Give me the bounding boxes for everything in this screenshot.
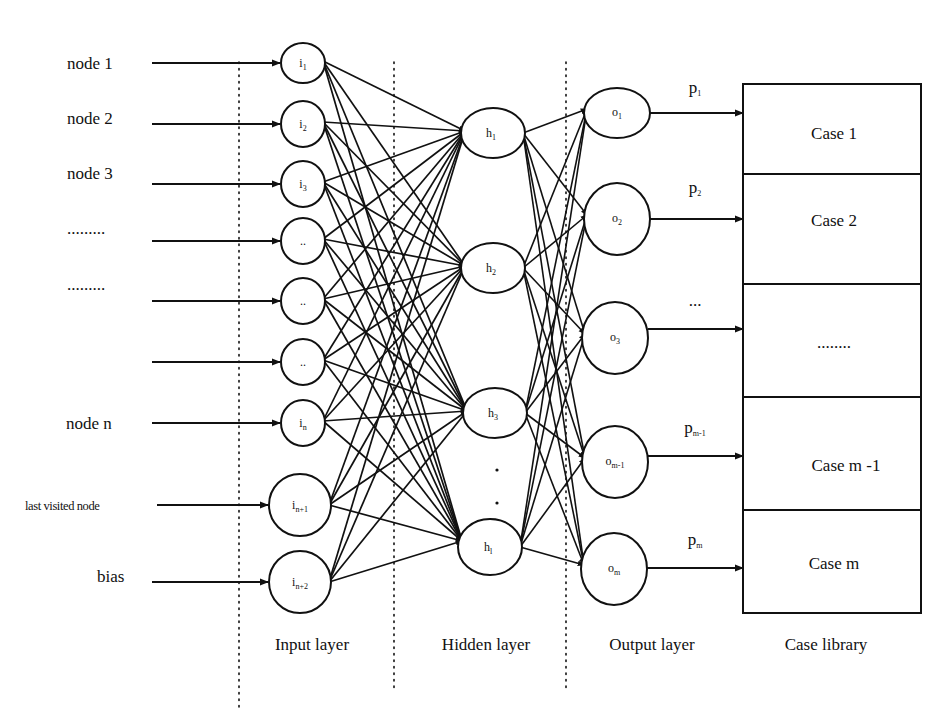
hidden-node-h3: h3	[463, 388, 527, 438]
connection-edge	[523, 268, 584, 565]
input-node-in: in	[281, 400, 325, 446]
case-row-label: ........	[817, 333, 851, 352]
case-library: Case 1Case 2........Case m -1Case m	[743, 84, 921, 613]
input-label: .........	[67, 275, 105, 294]
connection-edge	[323, 61, 462, 541]
input-node-in2: in+2	[269, 551, 331, 613]
input-label: node 2	[67, 109, 113, 128]
input-label: node n	[66, 414, 112, 433]
ellipsis-dot	[495, 501, 498, 504]
connection-edge	[520, 547, 584, 565]
node-label-main: ..	[300, 355, 306, 369]
output-node-o1: o1	[584, 88, 650, 138]
node-label-subscript: 2	[303, 124, 307, 133]
probability-label-main: p	[688, 530, 697, 549]
node-label-subscript: 3	[494, 413, 498, 422]
connection-edge	[323, 266, 465, 360]
layer-labels: Input layerHidden layerOutput layerCase …	[275, 635, 868, 654]
probability-label-main: ...	[689, 291, 702, 310]
hidden-node-hl: hl	[458, 519, 522, 575]
node-label-subscript: 2	[492, 268, 496, 277]
input-label: bias	[97, 567, 124, 586]
probability-label-subscript: 2	[697, 189, 701, 198]
hidden-layer-nodes: h1h2h3hl	[458, 108, 527, 575]
node-label-subscript: 1	[618, 112, 622, 121]
neural-network-diagram: node 1node 2node 3..................node…	[0, 0, 942, 726]
connection-edge	[520, 215, 587, 547]
connection-edge	[323, 122, 465, 131]
case-row-label: Case m	[809, 554, 860, 573]
output-node-o2: o2	[584, 183, 650, 255]
layer-label: Case library	[785, 635, 868, 654]
node-label-subscript: 3	[303, 184, 307, 193]
input-node-in1: in+1	[269, 474, 331, 536]
connection-edge	[520, 109, 587, 547]
probability-outputs: p1p2...pm-1pm	[647, 78, 743, 568]
hidden-output-connections	[520, 109, 587, 565]
output-layer-nodes: o1o2o3om-1om	[581, 88, 650, 605]
case-row-label: Case m -1	[812, 456, 881, 475]
input-node-i5: ..	[281, 278, 325, 324]
node-label-subscript: 3	[616, 337, 620, 346]
connection-edge	[323, 360, 462, 541]
node-label-subscript: n+1	[295, 505, 308, 514]
connection-edge	[523, 109, 587, 133]
layer-label: Output layer	[609, 635, 695, 654]
hidden-node-h2: h2	[461, 243, 525, 293]
input-label: node 3	[67, 164, 113, 183]
probability-label-subscript: m-1	[693, 429, 706, 438]
node-label-subscript: m	[614, 568, 621, 577]
input-label: last visited node	[25, 499, 100, 513]
input-label: node 1	[67, 54, 113, 73]
input-label: .........	[67, 219, 105, 238]
hidden-node-h1: h1	[461, 108, 525, 158]
node-label-subscript: n	[303, 423, 307, 432]
layer-label: Input layer	[275, 635, 349, 654]
probability-label-main: p	[689, 78, 698, 97]
output-node-om: om	[581, 533, 647, 605]
connection-edge	[329, 541, 462, 582]
output-node-o3: o3	[582, 302, 648, 374]
connection-edge	[329, 411, 467, 505]
node-label-subscript: 1	[492, 133, 496, 142]
node-label-subscript: 2	[618, 218, 622, 227]
ellipsis-dot	[495, 468, 498, 471]
probability-label-main: p	[689, 178, 698, 197]
case-row-label: Case 2	[811, 211, 857, 230]
probability-label-main: p	[684, 418, 693, 437]
input-node-i1: i1	[281, 43, 325, 83]
probability-label: p2	[689, 178, 702, 198]
input-node-i6: ..	[281, 339, 325, 385]
diagram-canvas: node 1node 2node 3..................node…	[0, 0, 942, 726]
probability-label: pm	[688, 530, 704, 550]
output-node-om1: om-1	[582, 426, 648, 498]
connection-edge	[520, 334, 585, 547]
connection-edge	[329, 266, 465, 582]
probability-label-subscript: 1	[697, 89, 701, 98]
input-labels: node 1node 2node 3..................node…	[25, 54, 124, 586]
node-label: ..	[300, 294, 306, 308]
input-layer-nodes: i1i2i3......inin+1in+2	[269, 43, 331, 613]
connection-edge	[323, 411, 467, 421]
node-label-subscript: 1	[303, 63, 307, 72]
probability-label: p1	[689, 78, 702, 98]
probability-label: ...	[689, 291, 702, 310]
input-hidden-connections	[323, 61, 467, 582]
layer-label: Hidden layer	[442, 635, 531, 654]
input-node-i2: i2	[281, 101, 325, 147]
connection-edge	[329, 411, 467, 582]
input-arrows	[152, 63, 280, 582]
node-label-main: ..	[300, 294, 306, 308]
node-label: ..	[300, 355, 306, 369]
node-label-subscript: n+2	[295, 582, 308, 591]
case-row-label: Case 1	[811, 124, 857, 143]
input-node-i3: i3	[281, 161, 325, 207]
probability-label-subscript: m	[696, 541, 703, 550]
node-label: ..	[300, 234, 306, 248]
node-label-main: ..	[300, 234, 306, 248]
connection-edge	[323, 182, 462, 541]
node-label-subscript: m-1	[612, 461, 625, 470]
probability-label: pm-1	[684, 418, 705, 438]
input-node-i4: ..	[281, 218, 325, 264]
